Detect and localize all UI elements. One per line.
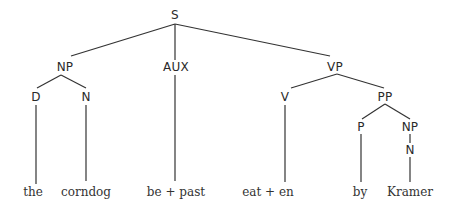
node-pp: PP bbox=[378, 91, 393, 103]
leaf-corndog: corndog bbox=[61, 186, 111, 198]
tree-edge bbox=[362, 104, 385, 119]
node-aux: AUX bbox=[163, 61, 189, 73]
node-d: D bbox=[31, 91, 40, 103]
node-n-subject: N bbox=[81, 91, 90, 103]
tree-edge bbox=[175, 24, 330, 56]
tree-edge bbox=[291, 74, 337, 88]
node-vp: VP bbox=[327, 61, 343, 73]
leaf-by: by bbox=[353, 186, 367, 198]
leaf-be-past: be + past bbox=[147, 186, 205, 198]
tree-edge bbox=[385, 104, 410, 119]
node-s: S bbox=[171, 9, 179, 21]
node-p: P bbox=[357, 121, 364, 133]
leaf-eat-en: eat + en bbox=[242, 186, 294, 198]
tree-edge bbox=[37, 75, 61, 88]
tree-edge bbox=[71, 24, 175, 56]
node-n-object: N bbox=[405, 144, 414, 156]
node-np-object: NP bbox=[402, 121, 419, 133]
node-np-subject: NP bbox=[57, 61, 74, 73]
leaf-kramer: Kramer bbox=[387, 186, 433, 198]
tree-edge bbox=[337, 74, 384, 88]
tree-edges bbox=[0, 0, 453, 209]
node-v: V bbox=[281, 91, 289, 103]
leaf-the: the bbox=[23, 186, 43, 198]
tree-edge bbox=[61, 75, 86, 88]
syntax-tree-diagram: S NP AUX VP D N V PP P NP N the corndog … bbox=[0, 0, 453, 209]
